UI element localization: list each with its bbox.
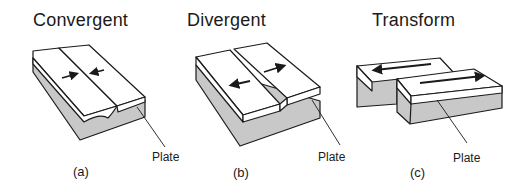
panel-b-title: Divergent [187, 10, 266, 31]
panel-a-caption: (a) [73, 164, 89, 179]
panel-c-plate-label: Plate [453, 151, 480, 165]
divergent-block [196, 43, 340, 146]
panel-a-plate-label: Plate [152, 150, 179, 164]
panel-a-title: Convergent [33, 10, 128, 31]
convergent-block [33, 45, 165, 147]
panel-c-title: Transform [372, 10, 455, 31]
transform-block [357, 58, 502, 143]
panel-c-caption: (c) [410, 165, 425, 180]
panel-b-caption: (b) [233, 165, 249, 180]
panel-b-plate-label: Plate [318, 150, 345, 164]
